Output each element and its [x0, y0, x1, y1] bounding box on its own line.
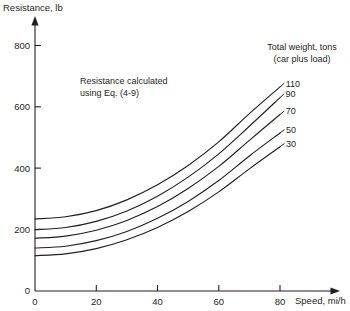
curve-90-tons [35, 98, 280, 230]
series-label-70: 70 [286, 106, 296, 116]
leader-line-110 [280, 83, 284, 87]
y-tick-label-800: 800 [14, 40, 30, 51]
y-axis-arrowhead-icon [31, 16, 38, 26]
annotation-text: Resistance calculated using Eq. (4-9) [80, 76, 168, 98]
resistance-speed-chart: 800 600 400 200 0 Resistance, lb 0 20 40… [0, 0, 350, 311]
curve-110-tons [35, 87, 280, 219]
legend-title: Total weight, tons (car plus load) [267, 42, 337, 64]
annotation-line-1: Resistance calculated [80, 76, 168, 86]
leader-line-50 [280, 130, 284, 133]
series-label-110: 110 [286, 79, 300, 89]
y-tick-label-0: 0 [25, 285, 30, 296]
curve-70-tons [35, 115, 280, 239]
y-tick-label-600: 600 [14, 101, 30, 112]
x-tick-label-80: 80 [275, 296, 286, 307]
x-axis: 0 20 40 60 80 Speed, mi/h [32, 285, 345, 307]
leader-line-30 [280, 144, 284, 147]
series-label-50: 50 [286, 125, 296, 135]
data-curves [35, 87, 280, 256]
series-label-90: 90 [286, 89, 296, 99]
y-axis: 800 600 400 200 0 Resistance, lb [3, 2, 63, 296]
leader-line-90 [280, 94, 284, 98]
curve-50-tons [35, 133, 280, 248]
series-label-30: 30 [286, 139, 296, 149]
y-axis-title: Resistance, lb [3, 2, 63, 13]
legend-title-line-1: Total weight, tons [267, 42, 337, 52]
series-end-labels: 11090705030 [280, 79, 300, 149]
curve-30-tons [35, 147, 280, 256]
x-tick-label-60: 60 [214, 296, 225, 307]
annotation-line-2: using Eq. (4-9) [80, 88, 139, 98]
leader-line-70 [280, 111, 284, 115]
x-tick-label-20: 20 [91, 296, 102, 307]
y-tick-label-200: 200 [14, 224, 30, 235]
legend-title-line-2: (car plus load) [273, 54, 330, 64]
x-tick-label-40: 40 [152, 296, 163, 307]
y-tick-label-400: 400 [14, 163, 30, 174]
x-tick-label-0: 0 [32, 296, 37, 307]
chart-container: 800 600 400 200 0 Resistance, lb 0 20 40… [0, 0, 350, 311]
x-axis-arrowhead-icon [331, 287, 341, 294]
x-axis-title: Speed, mi/h [295, 295, 346, 306]
